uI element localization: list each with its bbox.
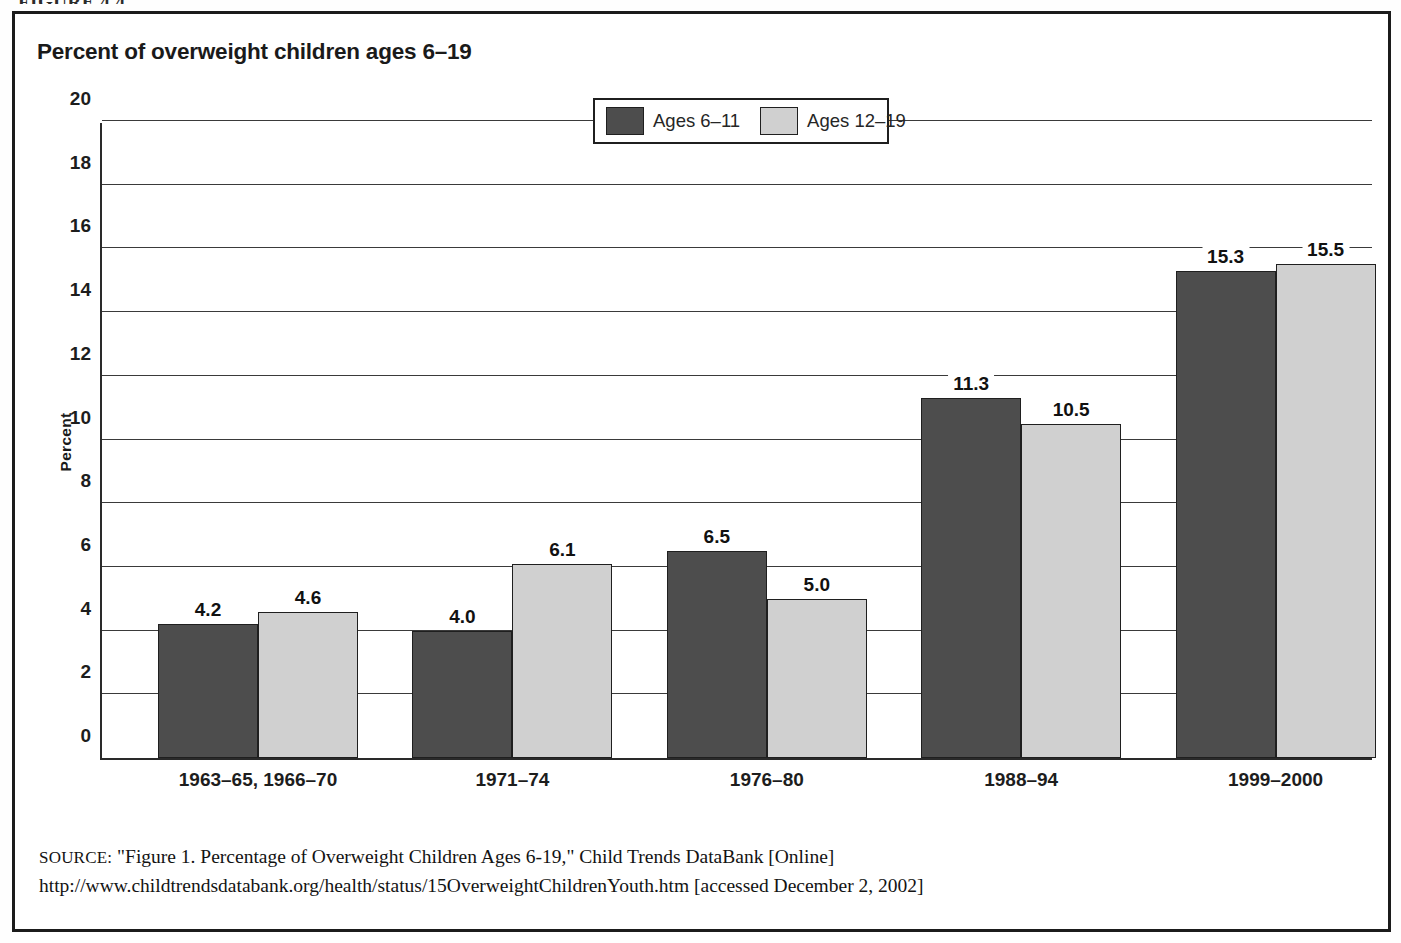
x-axis-group-label: 1988–94 — [984, 769, 1058, 791]
bar: 4.2 — [158, 624, 258, 758]
legend-swatch-ages-6-11 — [606, 107, 644, 135]
x-axis-group-label: 1971–74 — [475, 769, 549, 791]
bar-value-label: 10.5 — [1048, 400, 1095, 420]
y-axis-tick-label: 14 — [70, 279, 91, 301]
bar: 11.3 — [921, 398, 1021, 758]
bar: 6.1 — [512, 564, 612, 758]
y-axis-tick-label: 20 — [70, 88, 91, 110]
bar-value-label: 6.1 — [544, 540, 580, 560]
x-axis-group-label: 1999–2000 — [1228, 769, 1323, 791]
y-axis-tick-label: 4 — [80, 598, 91, 620]
source-text: "Figure 1. Percentage of Overweight Chil… — [39, 846, 924, 896]
bar: 4.0 — [412, 631, 512, 758]
bar-value-label: 15.3 — [1202, 247, 1249, 267]
y-axis-tick-label: 8 — [80, 470, 91, 492]
legend-label-ages-6-11: Ages 6–11 — [653, 110, 740, 132]
y-axis-tick-label: 6 — [80, 534, 91, 556]
chart-title: Percent of overweight children ages 6–19 — [37, 39, 472, 65]
bar-value-label: 4.0 — [444, 607, 480, 627]
legend-entry-0: Ages 6–11 — [606, 107, 740, 135]
bar-value-label: 15.5 — [1302, 240, 1349, 260]
y-axis-tick-label: 10 — [70, 407, 91, 429]
bar-value-label: 4.2 — [190, 600, 226, 620]
source-note: SOURCE: "Figure 1. Percentage of Overwei… — [39, 843, 1364, 901]
legend-swatch-ages-12-19 — [760, 107, 798, 135]
bar: 15.3 — [1176, 271, 1276, 758]
legend-label-ages-12-19: Ages 12–19 — [807, 110, 906, 132]
source-label: SOURCE: — [39, 848, 112, 867]
x-axis-group-label: 1963–65, 1966–70 — [179, 769, 338, 791]
y-axis-tick-label: 0 — [80, 725, 91, 747]
bar-value-label: 6.5 — [699, 527, 735, 547]
y-axis-tick-label: 18 — [70, 152, 91, 174]
bar-value-label: 11.3 — [948, 374, 994, 394]
bar: 10.5 — [1021, 424, 1121, 758]
x-axis-group-label: 1976–80 — [730, 769, 804, 791]
y-axis-tick-label: 12 — [70, 343, 91, 365]
bar: 5.0 — [767, 599, 867, 758]
legend-entry-1: Ages 12–19 — [760, 107, 906, 135]
gridline — [102, 247, 1372, 248]
y-axis-tick-label: 16 — [70, 215, 91, 237]
bar: 6.5 — [667, 551, 767, 758]
bar: 4.6 — [258, 612, 358, 759]
bar-value-label: 4.6 — [290, 588, 326, 608]
plot-area: Percent 02468101214161820 4.24.64.06.16.… — [100, 123, 1372, 760]
gridline — [102, 184, 1372, 185]
bar-value-label: 5.0 — [799, 575, 835, 595]
plot-axes: 02468101214161820 4.24.64.06.16.55.011.3… — [100, 123, 1372, 760]
figure-frame: Percent of overweight children ages 6–19… — [12, 11, 1391, 932]
bar: 15.5 — [1276, 264, 1376, 758]
figure-caption: FIGURE 4.4 — [18, 0, 125, 4]
chart-legend: Ages 6–11 Ages 12–19 — [593, 98, 889, 144]
figure-page: FIGURE 4.4 Percent of overweight childre… — [0, 0, 1401, 943]
y-axis-tick-label: 2 — [80, 661, 91, 683]
